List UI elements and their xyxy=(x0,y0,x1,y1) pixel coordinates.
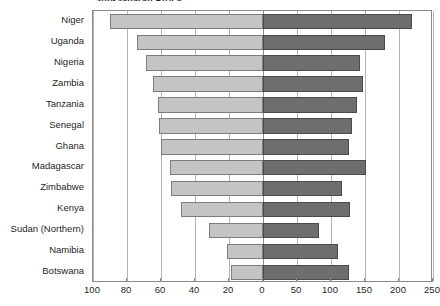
value-tick-right-200-tick xyxy=(398,278,399,282)
bar-left xyxy=(110,14,263,29)
bar-right xyxy=(263,223,319,238)
value-tick-right-50: 50 xyxy=(291,284,302,295)
bar-right xyxy=(263,55,360,70)
bar-right xyxy=(263,160,366,175)
category-label: Namibia xyxy=(49,240,84,261)
bar-row xyxy=(93,157,431,178)
value-tick-right-250: 250 xyxy=(424,284,440,295)
bar-row xyxy=(93,95,431,116)
bar-left xyxy=(231,265,263,280)
bar-right xyxy=(263,14,412,29)
value-tick-left-80-tick xyxy=(126,278,127,282)
value-tick-left-40: 40 xyxy=(189,284,200,295)
value-tick-right-150-tick xyxy=(364,278,365,282)
value-tick-left-20: 20 xyxy=(223,284,234,295)
bar-right xyxy=(263,97,357,112)
category-axis-labels: NigerUgandaNigeriaZambiaTanzaniaSenegalG… xyxy=(0,10,88,282)
value-tick-right-150: 150 xyxy=(356,284,372,295)
bar-right xyxy=(263,181,342,196)
value-tick-right-100-tick xyxy=(330,278,331,282)
value-tick-left-20-tick xyxy=(228,278,229,282)
bar-left xyxy=(209,223,263,238)
bar-left xyxy=(137,35,263,50)
value-axis-labels: 10080604020050100150200250 xyxy=(0,284,437,300)
bar-row xyxy=(93,178,431,199)
bar-left xyxy=(158,97,263,112)
plot-area xyxy=(92,10,432,282)
category-label: Madagascar xyxy=(32,156,84,177)
bar-right xyxy=(263,118,352,133)
bar-left xyxy=(159,118,263,133)
category-label: Niger xyxy=(61,10,84,31)
value-tick-right-100: 100 xyxy=(322,284,338,295)
bar-rows xyxy=(93,11,431,281)
category-label: Botswana xyxy=(42,261,84,282)
value-tick-left-100: 100 xyxy=(84,284,100,295)
value-tick-left-80: 80 xyxy=(121,284,132,295)
value-tick-right-250-tick xyxy=(432,278,433,282)
bar-right xyxy=(263,35,385,50)
bar-left xyxy=(146,55,263,70)
category-label: Senegal xyxy=(49,115,84,136)
bar-left xyxy=(227,244,263,259)
bar-row xyxy=(93,32,431,53)
value-tick-right-0: 0 xyxy=(259,284,264,295)
category-label: Uganda xyxy=(51,31,84,52)
value-tick-left-60-tick xyxy=(160,278,161,282)
category-label: Zambia xyxy=(52,73,84,94)
value-tick-left-60: 60 xyxy=(155,284,166,295)
bar-row xyxy=(93,116,431,137)
bar-row xyxy=(93,74,431,95)
gridline-right-250 xyxy=(433,11,434,281)
bar-right xyxy=(263,76,363,91)
value-tick-left-40-tick xyxy=(194,278,195,282)
value-tick-left-100-tick xyxy=(92,278,93,282)
value-tick-right-0-tick xyxy=(262,278,263,282)
category-label: Tanzania xyxy=(46,94,84,115)
bar-left xyxy=(171,181,263,196)
bar-left xyxy=(170,160,264,175)
category-label: Zimbabwe xyxy=(40,177,84,198)
bar-row xyxy=(93,11,431,32)
bar-left xyxy=(181,202,263,217)
value-tick-right-50-tick xyxy=(296,278,297,282)
value-tick-right-200: 200 xyxy=(390,284,406,295)
category-label: Nigeria xyxy=(54,52,84,73)
category-label: Ghana xyxy=(55,136,84,157)
bar-right xyxy=(263,202,350,217)
bar-row xyxy=(93,199,431,220)
chart-title: Sub-Saharan Africa xyxy=(95,0,182,1)
category-label: Kenya xyxy=(57,198,84,219)
category-label: Sudan (Northern) xyxy=(11,219,84,240)
bar-left xyxy=(153,76,264,91)
bar-right xyxy=(263,265,349,280)
bar-right xyxy=(263,139,349,154)
bar-left xyxy=(161,139,263,154)
bar-row xyxy=(93,241,431,262)
bar-row xyxy=(93,220,431,241)
bar-row xyxy=(93,53,431,74)
bar-row xyxy=(93,137,431,158)
bar-right xyxy=(263,244,338,259)
